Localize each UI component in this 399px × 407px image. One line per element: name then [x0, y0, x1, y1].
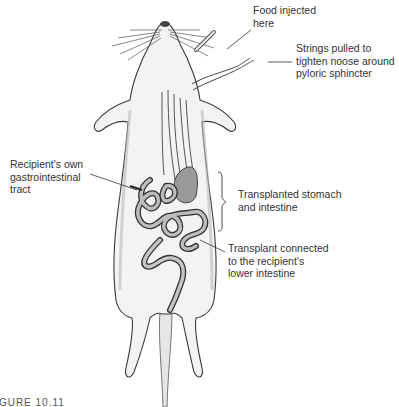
leader-food — [227, 30, 251, 49]
brace — [218, 172, 226, 231]
nose — [160, 21, 170, 27]
label-recipient-gi-tract: Recipient's own gastrointestinal tract — [10, 158, 83, 196]
strings — [192, 66, 238, 84]
label-transplant-connected: Transplant connected to the recipient's … — [228, 242, 329, 280]
label-transplanted-organs: Transplanted stomach and intestine — [238, 188, 342, 213]
label-strings-pulled: Strings pulled to tighten noose around p… — [296, 42, 395, 80]
label-food-injected: Food injected here — [253, 4, 316, 29]
tail — [159, 310, 172, 407]
figure-caption: FIGURE 10.11 — [0, 397, 65, 407]
